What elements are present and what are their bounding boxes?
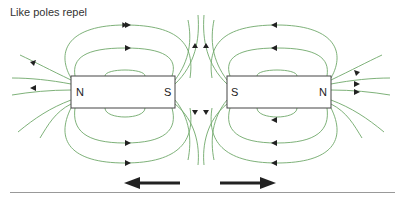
right-magnet [227,76,331,108]
force-arrow-left [124,177,180,189]
bottom-divider [10,192,395,193]
left-magnet-south-label: S [164,86,171,98]
force-arrow-right [220,177,276,189]
right-magnet-south-label: S [231,86,238,98]
right-magnet-north-label: N [319,86,327,98]
left-magnet [71,76,175,108]
left-magnet-north-label: N [76,86,84,98]
field-lines-diagram [0,0,395,201]
diagram: Like poles repel [0,0,395,201]
